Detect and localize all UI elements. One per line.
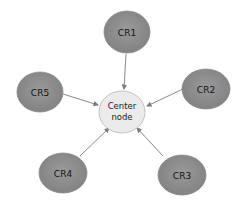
edge-cr2	[147, 89, 183, 106]
node-cr4: CR4	[39, 153, 87, 193]
node-label: CR2	[197, 85, 215, 95]
node-cr5: CR5	[17, 72, 63, 112]
node-cr2: CR2	[182, 69, 230, 109]
edge-cr1	[124, 54, 126, 89]
node-label: CR5	[31, 88, 49, 98]
edge-cr5	[63, 94, 98, 105]
center-label-line1: Center	[108, 101, 137, 111]
node-label: CR3	[173, 171, 191, 181]
edge-cr4	[80, 128, 109, 156]
node-cr1: CR1	[104, 11, 150, 53]
center-label-line2: node	[111, 112, 132, 122]
edge-cr3	[137, 128, 163, 156]
node-label: CR4	[54, 169, 73, 179]
node-cr3: CR3	[158, 155, 206, 195]
center-node: Center node	[99, 91, 145, 133]
star-diagram: CR1 CR2 CR3 CR4 CR5 Center node	[0, 0, 243, 205]
node-label: CR1	[118, 28, 136, 38]
